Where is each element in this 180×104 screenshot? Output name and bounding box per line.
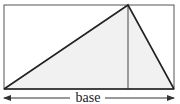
base-label: base — [76, 90, 101, 104]
triangle-area-diagram: base — [0, 0, 180, 104]
triangle-shape — [4, 5, 174, 89]
